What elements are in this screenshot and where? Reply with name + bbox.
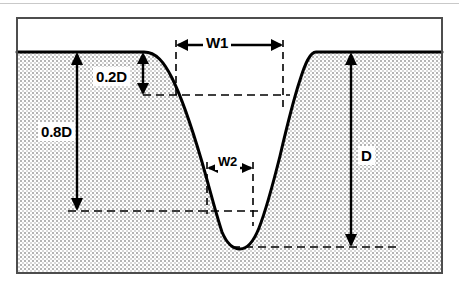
label-depth-02d: 0.2D xyxy=(93,67,130,86)
label-w1: W1 xyxy=(203,33,231,52)
label-w2: W2 xyxy=(215,153,240,170)
figure-container: W1 W2 0.2D 0.8D D xyxy=(0,0,459,292)
label-depth-08d: 0.8D xyxy=(38,122,75,141)
label-depth-d: D xyxy=(358,146,375,165)
